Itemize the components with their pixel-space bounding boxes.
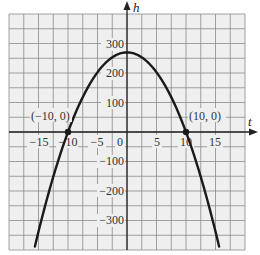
y-tick-label: −100 <box>99 154 124 168</box>
x-axis-arrow-icon <box>249 129 258 136</box>
y-axis-label: h <box>133 0 140 15</box>
x-tick-label: −10 <box>59 135 78 149</box>
x-tick-label: −5 <box>91 135 104 149</box>
y-axis-arrow-icon <box>124 1 131 10</box>
point-label-left: (−10, 0) <box>31 109 70 123</box>
y-tick-label: −300 <box>99 213 124 227</box>
y-tick-label: −200 <box>99 184 124 198</box>
point-label-right: (10, 0) <box>189 109 221 123</box>
x-axis-label: t <box>248 114 252 129</box>
x-tick-label: 0 <box>117 135 123 149</box>
y-tick-label: 300 <box>106 37 124 51</box>
root-point-left <box>65 129 71 135</box>
y-tick-label: 200 <box>106 66 124 80</box>
x-tick-labels: −15 −10 −5 0 5 10 15 <box>27 135 223 149</box>
y-tick-label: 100 <box>106 96 124 110</box>
x-tick-label: 5 <box>154 135 160 149</box>
x-tick-label: −15 <box>30 135 49 149</box>
x-tick-label: 15 <box>209 135 221 149</box>
root-point-right <box>183 129 189 135</box>
parabola-chart: h t −15 −10 −5 0 5 10 15 300 200 100 −10… <box>0 0 260 255</box>
